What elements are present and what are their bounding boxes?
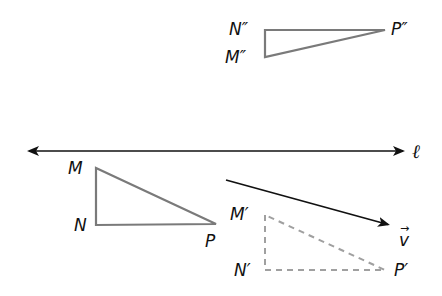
triangle-mnp: [96, 168, 216, 225]
label-p-prime: P′: [394, 262, 408, 279]
diagram-canvas: N″ M″ P″ ℓ M N P M′ N′ P′ → v: [0, 0, 442, 296]
diagram-svg: [0, 0, 442, 296]
label-n-double-prime: N″: [229, 21, 248, 38]
triangle-m2n2p2: [265, 30, 385, 57]
label-p: P: [205, 233, 215, 250]
label-m: M: [68, 160, 83, 177]
label-p-double-prime: P″: [391, 21, 408, 38]
label-n: N: [74, 217, 87, 234]
label-m-prime: M′: [230, 206, 249, 223]
label-n-prime: N′: [234, 262, 251, 279]
vector-arrow-icon: →: [400, 223, 409, 234]
vector-v: [226, 180, 388, 225]
triangle-m1n1p1-dashed: [265, 215, 385, 270]
label-line-l: ℓ: [412, 142, 420, 161]
label-vector-v: → v: [399, 232, 409, 249]
label-m-double-prime: M″: [225, 49, 246, 66]
